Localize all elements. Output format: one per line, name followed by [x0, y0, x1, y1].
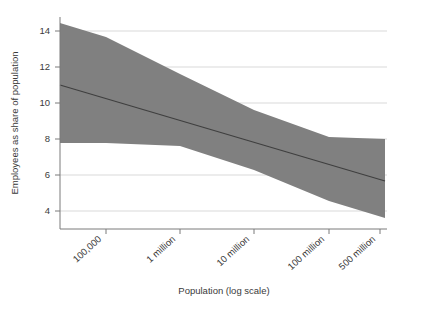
x-axis-title: Population (log scale) — [178, 285, 269, 296]
y-tick-label-10: 10 — [39, 97, 50, 108]
y-axis-title: Employees as share of population — [9, 51, 20, 194]
y-tick-label-14: 14 — [39, 25, 50, 36]
y-tick-label-4: 4 — [45, 205, 50, 216]
y-tick-label-8: 8 — [45, 133, 50, 144]
chart-container: 14 12 10 8 6 4 100,000 1 million 10 mill… — [0, 0, 430, 311]
y-tick-label-12: 12 — [39, 61, 50, 72]
regression-band-chart: 14 12 10 8 6 4 100,000 1 million 10 mill… — [0, 0, 430, 311]
y-tick-label-6: 6 — [45, 169, 50, 180]
